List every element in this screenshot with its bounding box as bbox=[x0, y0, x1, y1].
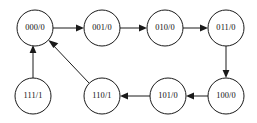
state-transition-diagram: 000/0 001/0 010/0 011/0 111/1 110/1 101/… bbox=[0, 0, 257, 123]
node-111[interactable]: 111/1 bbox=[15, 78, 51, 114]
edge-111-to-000 bbox=[30, 45, 37, 78]
node-001[interactable]: 001/0 bbox=[84, 10, 120, 46]
node-000[interactable]: 000/0 bbox=[17, 10, 53, 46]
node-label: 011/0 bbox=[216, 23, 235, 32]
diagram-canvas: 000/0 001/0 010/0 011/0 111/1 110/1 101/… bbox=[0, 0, 257, 123]
edge-010-to-011 bbox=[183, 25, 208, 32]
node-101[interactable]: 101/0 bbox=[150, 78, 186, 114]
node-label: 101/0 bbox=[158, 91, 178, 100]
edge-101-to-110 bbox=[120, 93, 150, 100]
arrowhead-icon bbox=[186, 93, 194, 100]
arrowhead-icon bbox=[120, 93, 128, 100]
node-011[interactable]: 011/0 bbox=[208, 10, 244, 46]
node-010[interactable]: 010/0 bbox=[147, 10, 183, 46]
node-label: 010/0 bbox=[155, 23, 175, 32]
arrowhead-icon bbox=[200, 25, 208, 32]
edge-100-to-101 bbox=[186, 93, 208, 100]
node-label: 110/1 bbox=[92, 91, 111, 100]
node-label: 000/0 bbox=[25, 23, 45, 32]
node-110[interactable]: 110/1 bbox=[84, 78, 120, 114]
node-label: 100/0 bbox=[216, 91, 236, 100]
node-100[interactable]: 100/0 bbox=[208, 78, 244, 114]
arrowhead-icon bbox=[139, 25, 147, 32]
node-label: 001/0 bbox=[92, 23, 112, 32]
edge-110-to-000 bbox=[48, 40, 89, 83]
arrowhead-icon bbox=[48, 40, 58, 48]
edge-line bbox=[52, 44, 89, 83]
edge-011-to-100 bbox=[223, 46, 230, 78]
arrowhead-icon bbox=[223, 70, 230, 78]
edge-000-to-001 bbox=[53, 25, 84, 32]
edge-001-to-010 bbox=[120, 25, 147, 32]
arrowhead-icon bbox=[76, 25, 84, 32]
node-label: 111/1 bbox=[24, 91, 43, 100]
